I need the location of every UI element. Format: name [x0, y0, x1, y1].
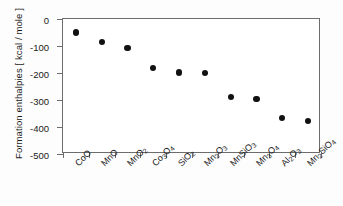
data-point	[202, 70, 208, 76]
data-point	[253, 96, 259, 102]
y-tick-label: -400	[30, 123, 49, 134]
plot-area: 0-100-200-300-400-500	[62, 18, 320, 153]
data-point	[73, 29, 79, 35]
y-tick-label: -500	[30, 150, 49, 161]
y-tick-label: -100	[30, 42, 49, 53]
data-point	[176, 69, 182, 75]
y-tick-label: -200	[30, 69, 49, 80]
y-tick-mark: -200	[57, 73, 63, 74]
y-tick-mark: -400	[57, 127, 63, 128]
y-tick-label: 0	[44, 15, 49, 26]
y-tick-label: -300	[30, 96, 49, 107]
data-point	[150, 65, 156, 71]
y-tick-mark: -300	[57, 100, 63, 101]
y-axis-title: Formation enthalpies [ kcal / mole ]	[13, 4, 24, 164]
x-axis-category-labels: CoOMnOMnO2Co3O4SiO2Mn2O3MnSiO3Mn3O4Al2O3…	[62, 161, 320, 206]
x-tick-mark	[63, 152, 64, 158]
data-point	[99, 39, 105, 45]
data-point	[124, 45, 130, 51]
chart-figure: Formation enthalpies [ kcal / mole ] 0-1…	[0, 0, 343, 206]
data-point	[228, 94, 234, 100]
data-point	[279, 115, 285, 121]
y-tick-mark: 0	[57, 19, 63, 20]
data-point	[305, 118, 311, 124]
y-tick-mark: -100	[57, 46, 63, 47]
